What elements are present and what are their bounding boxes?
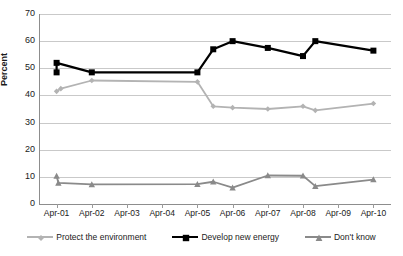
data-point-marker xyxy=(316,235,323,241)
series-don-t-know xyxy=(53,172,376,190)
chart-container: Percent 010203040506070 Apr-01Apr-02Apr-… xyxy=(0,0,403,256)
legend-item[interactable]: Develop new energy xyxy=(172,231,279,242)
data-point-marker xyxy=(313,108,319,114)
series-develop-new-energy xyxy=(54,38,377,75)
data-point-marker xyxy=(371,101,377,107)
legend-marker-square-icon xyxy=(172,231,198,242)
data-point-marker xyxy=(54,60,60,66)
data-point-marker xyxy=(300,103,306,109)
data-point-marker xyxy=(265,45,271,51)
series-protect-the-environment xyxy=(54,78,376,113)
data-point-marker xyxy=(265,106,271,112)
data-point-marker xyxy=(38,235,44,241)
chart-legend: Protect the environmentDevelop new energ… xyxy=(0,231,403,242)
data-point-marker xyxy=(300,53,306,59)
series-line xyxy=(57,41,374,72)
data-point-marker xyxy=(54,69,60,75)
legend-item[interactable]: Don't know xyxy=(305,231,376,242)
data-point-marker xyxy=(210,46,216,52)
data-point-marker xyxy=(370,48,376,54)
data-point-marker xyxy=(230,38,236,44)
data-point-marker xyxy=(89,69,95,75)
legend-label: Develop new energy xyxy=(201,232,279,242)
series-line xyxy=(57,176,374,188)
data-point-marker xyxy=(230,105,236,111)
legend-label: Protect the environment xyxy=(56,232,146,242)
legend-item[interactable]: Protect the environment xyxy=(27,231,146,242)
data-point-marker xyxy=(89,78,95,84)
data-point-marker xyxy=(312,38,318,44)
legend-marker-diamond-icon xyxy=(27,231,53,242)
legend-label: Don't know xyxy=(334,232,376,242)
data-point-marker xyxy=(53,173,59,179)
legend-marker-triangle-icon xyxy=(305,231,331,242)
data-point-marker xyxy=(194,69,200,75)
data-point-marker xyxy=(183,235,189,241)
data-series-layer xyxy=(0,0,403,256)
